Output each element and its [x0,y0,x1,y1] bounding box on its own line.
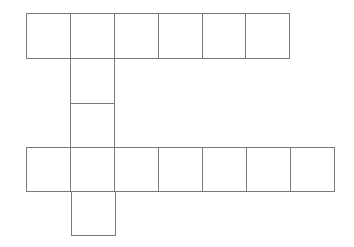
grid-cell-mid-2 [70,103,115,148]
grid-cell-top-2 [70,13,115,59]
grid-cell-bot-4 [158,147,203,192]
grid-cell-mid-1 [70,58,115,104]
grid-cell-top-1 [26,13,71,59]
grid-cell-bot-5 [202,147,247,192]
grid-cell-top-4 [158,13,203,59]
grid-cell-top-5 [202,13,246,59]
grid-cell-bot-1 [26,147,71,192]
grid-cell-tail-1 [71,191,116,236]
grid-cell-top-6 [245,13,290,59]
grid-cell-top-3 [114,13,159,59]
grid-cell-bot-6 [246,147,291,192]
grid-cell-bot-7 [290,147,335,192]
grid-cell-bot-3 [114,147,159,192]
grid-cell-bot-2 [70,147,115,192]
